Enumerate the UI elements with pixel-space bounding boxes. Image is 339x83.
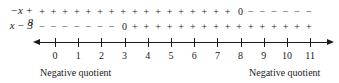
minus-sign: −	[282, 7, 290, 17]
annotation-right-negative-quotient: Negative quotient	[249, 67, 320, 78]
minus-sign: −	[258, 7, 266, 17]
tick-label-7: 7	[209, 50, 225, 61]
plus-sign: +	[200, 22, 208, 32]
plus-sign: +	[154, 22, 162, 32]
minus-sign: −	[50, 22, 58, 32]
plus-sign: +	[177, 22, 185, 32]
minus-sign: −	[108, 22, 116, 32]
minus-sign: −	[73, 22, 81, 32]
tick-label-6: 6	[186, 50, 202, 61]
plus-sign: +	[189, 7, 197, 17]
tick-label-4: 4	[140, 50, 156, 61]
plus-sign: +	[305, 22, 313, 32]
plus-sign: +	[73, 7, 81, 17]
plus-sign: +	[212, 22, 220, 32]
tick-11	[310, 38, 311, 47]
plus-sign: +	[166, 7, 174, 17]
plus-sign: +	[154, 7, 162, 17]
axis-arrow-right-icon	[327, 39, 334, 45]
plus-sign: +	[108, 7, 116, 17]
plus-sign: +	[84, 7, 92, 17]
tick-7	[217, 38, 218, 47]
tick-label-3: 3	[117, 50, 133, 61]
minus-sign: −	[38, 22, 46, 32]
plus-sign: +	[61, 7, 69, 17]
minus-sign: −	[305, 7, 313, 17]
tick-label-0: 0	[47, 50, 63, 61]
plus-sign: +	[50, 7, 58, 17]
tick-9	[264, 38, 265, 47]
minus-sign: −	[270, 7, 278, 17]
tick-6	[194, 38, 195, 47]
tick-label-2: 2	[93, 50, 109, 61]
plus-sign: +	[270, 22, 278, 32]
zero-marker: 0	[121, 22, 129, 32]
plus-sign: +	[247, 22, 255, 32]
tick-label-1: 1	[70, 50, 86, 61]
plus-sign: +	[212, 7, 220, 17]
plus-sign: +	[131, 22, 139, 32]
row-label-x-minus-3: x − 3	[3, 19, 33, 31]
plus-sign: +	[142, 7, 150, 17]
minus-sign: −	[293, 7, 301, 17]
plus-sign: +	[96, 7, 104, 17]
plus-sign: +	[38, 7, 46, 17]
plus-sign: +	[235, 22, 243, 32]
plus-sign: +	[293, 22, 301, 32]
plus-sign: +	[166, 22, 174, 32]
tick-label-8: 8	[233, 50, 249, 61]
tick-4	[148, 38, 149, 47]
tick-label-9: 9	[256, 50, 272, 61]
tick-1	[78, 38, 79, 47]
plus-sign: +	[282, 22, 290, 32]
zero-marker: 0	[237, 7, 245, 17]
tick-2	[101, 38, 102, 47]
plus-sign: +	[142, 22, 150, 32]
minus-sign: −	[96, 22, 104, 32]
minus-sign: −	[84, 22, 92, 32]
tick-10	[287, 38, 288, 47]
plus-sign: +	[224, 7, 232, 17]
tick-3	[125, 38, 126, 47]
minus-sign: −	[61, 22, 69, 32]
plus-sign: +	[177, 7, 185, 17]
tick-0	[55, 38, 56, 47]
tick-label-5: 5	[163, 50, 179, 61]
minus-sign: −	[247, 7, 255, 17]
plus-sign: +	[119, 7, 127, 17]
tick-label-11: 11	[302, 50, 318, 61]
number-line	[37, 42, 329, 43]
tick-8	[241, 38, 242, 47]
tick-5	[171, 38, 172, 47]
plus-sign: +	[224, 22, 232, 32]
plus-sign: +	[258, 22, 266, 32]
plus-sign: +	[189, 22, 197, 32]
plus-sign: +	[131, 7, 139, 17]
annotation-left-negative-quotient: Negative quotient	[40, 67, 111, 78]
tick-label-10: 10	[279, 50, 295, 61]
plus-sign: +	[200, 7, 208, 17]
